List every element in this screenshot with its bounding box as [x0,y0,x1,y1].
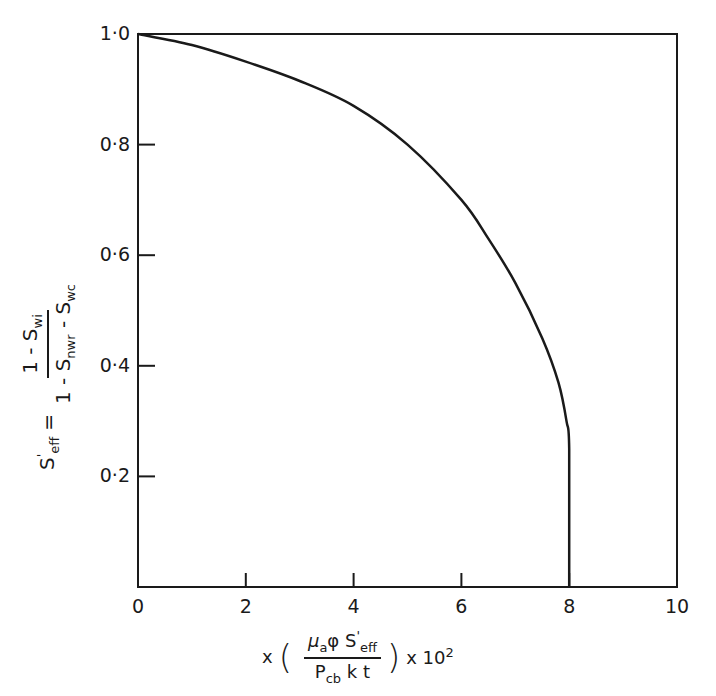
y-tick-label: 0·6 [80,243,130,265]
xlabel-prefix: x [262,646,273,667]
plot-frame [138,34,677,587]
xlabel-fraction: μaφ S'eff Pcb k t [304,628,381,685]
xlabel-suffix: x 102 [406,645,454,668]
y-tick-label: 1·0 [80,22,130,44]
y-tick-label: 0·8 [80,133,130,155]
left-paren: ( [279,637,292,677]
ylabel-numerator: 1 - Swi [18,310,49,378]
y-tick-label: 0·2 [80,464,130,486]
x-ticks [246,573,569,587]
x-tick-label: 10 [657,595,697,617]
y-tick-label: 0·4 [80,354,130,376]
xlabel-denominator: Pcb k t [311,659,374,686]
chart-plot [0,0,716,696]
ylabel-lhs: S'eff [34,437,62,470]
y-ticks [138,145,155,477]
ylabel-fraction: 1 - Swi 1 - Snwr - Swc [18,280,78,408]
x-tick-label: 0 [118,595,158,617]
ylabel-denominator: 1 - Snwr - Swc [49,280,78,408]
x-axis-label: x ( μaφ S'eff Pcb k t ) x 102 [262,628,454,685]
x-tick-label: 2 [226,595,266,617]
x-tick-label: 8 [549,595,589,617]
x-tick-label: 6 [441,595,481,617]
right-paren: ) [387,637,400,677]
y-axis-label: S'eff = 1 - Swi 1 - Snwr - Swc [18,280,78,470]
x-tick-label: 4 [334,595,374,617]
ylabel-equals: = [36,414,60,431]
series-line [138,34,569,587]
xlabel-numerator: μaφ S'eff [304,628,381,659]
